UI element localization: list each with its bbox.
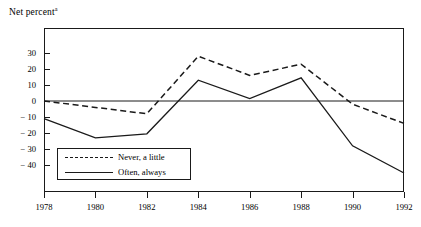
legend-label-never-a-little: Never, a little (118, 152, 165, 162)
legend-label-often-always: Often, always (118, 167, 166, 177)
legend-item-never-a-little: Never, a little (58, 150, 190, 165)
legend-swatch-dashed-icon (65, 157, 113, 158)
legend-swatch-solid-icon (65, 172, 113, 173)
chart-legend: Never, a little Often, always (57, 148, 191, 180)
chart-figure: Net percenta 3020100− 10− 20− 30− 40 197… (0, 0, 421, 227)
legend-item-often-always: Often, always (58, 165, 190, 180)
series-lines-layer (0, 0, 421, 227)
